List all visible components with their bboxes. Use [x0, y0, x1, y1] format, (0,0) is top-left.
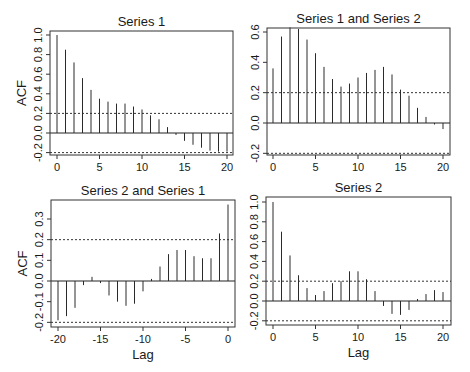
y-axis-label: ACF: [14, 80, 29, 106]
x-tick-label: -15: [93, 333, 109, 345]
y-tick-label: 0.2: [249, 85, 261, 100]
acf-panel-4: Series 205101520-0.20.00.20.40.60.81.0La…: [248, 180, 451, 360]
y-tick-label: 0.6: [248, 234, 260, 249]
plot-frame: [50, 31, 233, 155]
plot-frame: [266, 197, 451, 325]
x-tick-label: 0: [270, 331, 276, 343]
y-tick-label: 0.4: [249, 55, 261, 70]
y-tick-label: 0.8: [32, 47, 44, 62]
y-tick-label: 0.0: [32, 125, 44, 140]
y-axis-label: ACF: [15, 250, 30, 276]
x-tick-label: 0: [270, 161, 276, 173]
y-tick-label: -0.2: [33, 313, 45, 332]
x-tick-label: 20: [437, 161, 449, 173]
x-tick-label: 15: [394, 331, 406, 343]
y-tick-label: -0.1: [33, 292, 45, 311]
y-tick-label: 0.1: [33, 253, 45, 268]
y-tick-label: 0.0: [249, 115, 261, 130]
y-tick-label: 0.0: [33, 273, 45, 288]
x-tick-label: 5: [312, 161, 318, 173]
y-tick-label: 0.2: [32, 106, 44, 121]
x-tick-label: 0: [225, 333, 231, 345]
panel-title: Series 1: [118, 14, 166, 29]
plot-frame: [51, 200, 235, 327]
y-tick-label: 0.3: [33, 211, 45, 226]
y-tick-label: 1.0: [32, 27, 44, 42]
x-tick-label: 10: [352, 161, 364, 173]
x-tick-label: -20: [50, 333, 66, 345]
x-tick-label: 15: [394, 161, 406, 173]
panel-title: Series 2: [335, 180, 383, 195]
x-tick-label: 20: [437, 331, 449, 343]
y-tick-label: 1.0: [248, 194, 260, 209]
x-tick-label: 10: [352, 331, 364, 343]
y-tick-label: -0.2: [32, 143, 44, 162]
y-tick-label: 0.8: [248, 214, 260, 229]
panel-title: Series 1 and Series 2: [296, 11, 420, 26]
x-axis-label: Lag: [348, 345, 370, 360]
y-tick-label: -0.2: [249, 144, 261, 163]
y-tick-label: 0.6: [249, 24, 261, 39]
acf-panel-3: Series 2 and Series 1-20-15-10-50-0.2-0.…: [15, 183, 235, 362]
x-tick-label: 5: [312, 331, 318, 343]
y-tick-label: -0.2: [248, 311, 260, 330]
x-tick-label: 20: [221, 161, 233, 173]
x-tick-label: 10: [136, 161, 148, 173]
x-axis-label: Lag: [132, 347, 154, 362]
x-tick-label: 5: [96, 161, 102, 173]
y-tick-label: 0.2: [33, 232, 45, 247]
y-tick-label: 0.2: [248, 274, 260, 289]
y-tick-label: 0.0: [248, 293, 260, 308]
panel-title: Series 2 and Series 1: [81, 183, 205, 198]
acf-panel-1: Series 105101520-0.20.00.20.40.60.81.0AC…: [14, 14, 233, 173]
x-tick-label: 15: [178, 161, 190, 173]
y-tick-label: 0.4: [248, 254, 260, 269]
x-tick-label: -10: [135, 333, 151, 345]
y-tick-label: 0.4: [32, 86, 44, 101]
acf-figure: Series 105101520-0.20.00.20.40.60.81.0AC…: [0, 0, 470, 372]
acf-panel-2: Series 1 and Series 205101520-0.20.00.20…: [249, 11, 450, 173]
x-tick-label: -5: [181, 333, 191, 345]
y-tick-label: 0.6: [32, 67, 44, 82]
x-tick-label: 0: [54, 161, 60, 173]
